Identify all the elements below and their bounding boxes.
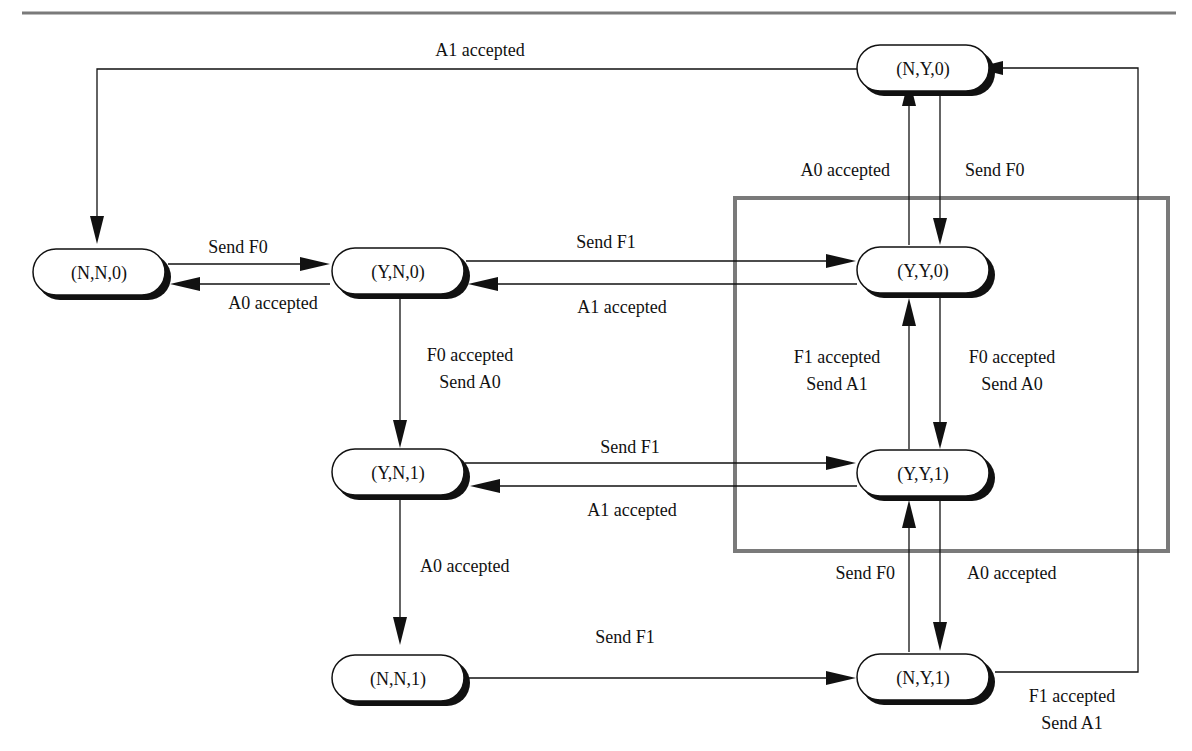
svg-text:A1 accepted: A1 accepted (577, 297, 666, 317)
svg-text:Send F1: Send F1 (595, 627, 655, 647)
svg-text:F0 accepted: F0 accepted (427, 345, 513, 365)
svg-text:F0 accepted: F0 accepted (969, 347, 1055, 367)
arrowhead-icon (902, 298, 916, 326)
state-nn0[interactable]: (N,N,0) (33, 249, 171, 300)
svg-text:Send A1: Send A1 (806, 374, 868, 394)
svg-text:Send F1: Send F1 (600, 437, 660, 457)
svg-text:F1 accepted: F1 accepted (1029, 686, 1115, 706)
edge-ny0-nn0: A1 accepted (90, 40, 857, 244)
state-yy1[interactable]: (Y,Y,1) (857, 450, 995, 501)
edge-yn0-yy0: Send F1 (466, 232, 856, 268)
arrowhead-icon (90, 216, 104, 244)
edge-nn0-yn0: Send F0 (168, 237, 330, 271)
svg-text:F1 accepted: F1 accepted (794, 347, 880, 367)
edge-yy1-yy0: F1 accepted Send A1 (794, 298, 916, 449)
state-ny0[interactable]: (N,Y,0) (857, 45, 995, 96)
state-diagram: A1 accepted Send F0 A0 accepted Send F1 … (0, 0, 1192, 751)
edge-yy1-ny1: A0 accepted (933, 500, 1056, 651)
state-yy0[interactable]: (Y,Y,0) (857, 247, 995, 298)
arrowhead-icon (826, 456, 856, 470)
svg-text:(Y,N,1): (Y,N,1) (371, 463, 425, 484)
arrowhead-icon (468, 277, 498, 291)
svg-text:Send F0: Send F0 (835, 563, 895, 583)
edge-ny1-yy1: Send F0 (835, 500, 916, 652)
svg-text:Send F1: Send F1 (576, 232, 636, 252)
state-nn1[interactable]: (N,N,1) (332, 655, 470, 706)
svg-text:A0 accepted: A0 accepted (228, 293, 317, 313)
arrowhead-icon (393, 617, 407, 645)
arrowhead-icon (933, 218, 947, 245)
arrowhead-icon (826, 671, 856, 685)
svg-text:(Y,Y,1): (Y,Y,1) (897, 464, 948, 485)
edge-yy0-yy1: F0 accepted Send A0 (933, 297, 1055, 449)
svg-text:A0 accepted: A0 accepted (801, 160, 890, 180)
edge-yy0-yn0: A1 accepted (468, 277, 857, 317)
svg-text:Send A0: Send A0 (439, 372, 501, 392)
edge-yn0-yn1: F0 accepted Send A0 (393, 297, 513, 448)
edge-nn1-ny1: Send F1 (468, 627, 856, 685)
svg-text:(Y,Y,0): (Y,Y,0) (897, 261, 948, 282)
svg-text:A1 accepted: A1 accepted (435, 40, 524, 60)
state-yn0[interactable]: (Y,N,0) (332, 248, 470, 299)
state-ny1[interactable]: (N,Y,1) (857, 654, 995, 705)
svg-text:(N,N,1): (N,N,1) (370, 669, 426, 690)
svg-text:(N,Y,1): (N,Y,1) (896, 668, 950, 689)
arrowhead-icon (933, 422, 947, 449)
svg-text:(N,Y,0): (N,Y,0) (896, 59, 950, 80)
arrowhead-icon (393, 420, 407, 448)
arrowhead-icon (170, 277, 200, 291)
edge-ny0-yy0: Send F0 (933, 96, 1025, 245)
svg-text:Send A0: Send A0 (981, 374, 1043, 394)
state-yn1[interactable]: (Y,N,1) (332, 449, 470, 500)
svg-text:A0 accepted: A0 accepted (420, 556, 509, 576)
svg-text:Send A1: Send A1 (1041, 713, 1103, 733)
svg-text:A1 accepted: A1 accepted (587, 500, 676, 520)
svg-text:(N,N,0): (N,N,0) (71, 263, 127, 284)
arrowhead-icon (902, 500, 916, 528)
arrowhead-icon (470, 479, 500, 493)
svg-text:(Y,N,0): (Y,N,0) (371, 262, 425, 283)
edge-yn1-nn1: A0 accepted (393, 500, 509, 645)
arrowhead-icon (826, 254, 856, 268)
edge-yn0-nn0: A0 accepted (170, 277, 330, 313)
edge-yn1-yy1: Send F1 (465, 437, 856, 470)
svg-text:A0 accepted: A0 accepted (967, 563, 1056, 583)
edge-yy1-yn1: A1 accepted (470, 479, 857, 520)
arrowhead-icon (300, 257, 330, 271)
edge-yy0-ny0: A0 accepted (801, 78, 916, 245)
svg-text:Send F0: Send F0 (208, 237, 268, 257)
svg-text:Send F0: Send F0 (965, 160, 1025, 180)
arrowhead-icon (933, 622, 947, 651)
